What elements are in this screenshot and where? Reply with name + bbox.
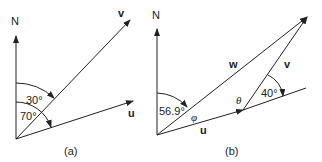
vector-v-label-b: v	[284, 58, 291, 70]
angle-56-9-label: 56.9°	[159, 105, 185, 117]
diagram-b: N w u v 56.9° φ θ 40° (b)	[152, 9, 307, 157]
vector-w-label-b: w	[228, 58, 238, 70]
angle-70-label: 70°	[20, 110, 37, 122]
caption-b: (b)	[225, 145, 238, 157]
diagram-a: N v u 30° 70° (a)	[11, 7, 135, 157]
north-label-b: N	[152, 9, 160, 21]
vector-w-b	[157, 17, 307, 135]
north-label-a: N	[11, 15, 19, 27]
angle-phi-label: φ	[191, 111, 197, 123]
vector-v-label-a: v	[118, 7, 125, 19]
angle-40-label: 40°	[261, 87, 278, 99]
vector-diagram-figure: N v u 30° 70° (a) N w u v 56.9° φ θ 40° …	[0, 0, 322, 162]
caption-a: (a)	[64, 145, 77, 157]
figure-canvas: N v u 30° 70° (a) N w u v 56.9° φ θ 40° …	[0, 0, 322, 162]
vector-u-label-a: u	[128, 107, 135, 119]
angle-theta-label: θ	[236, 94, 242, 106]
vector-u-label-b: u	[200, 124, 207, 136]
